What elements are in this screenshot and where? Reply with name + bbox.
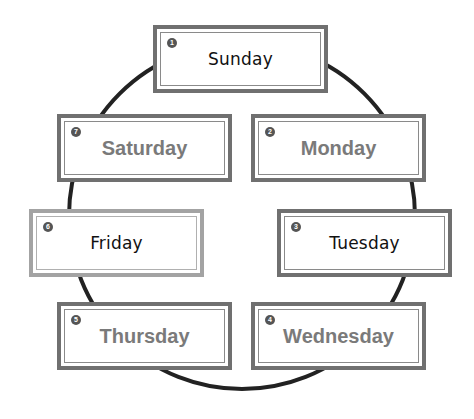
day-card-monday: 2 Monday — [251, 114, 426, 182]
day-label: Saturday — [65, 122, 224, 174]
day-card-tuesday: 3 Tuesday — [277, 209, 452, 277]
day-label: Thursday — [65, 310, 224, 362]
day-label: Sunday — [161, 33, 320, 85]
day-card-saturday: 7 Saturday — [57, 114, 232, 182]
day-label: Monday — [259, 122, 418, 174]
day-card-sunday: 1 Sunday — [153, 25, 328, 93]
day-card-wednesday: 4 Wednesday — [251, 302, 426, 370]
day-label: Friday — [37, 217, 196, 269]
day-label: Tuesday — [285, 217, 444, 269]
day-card-thursday: 5 Thursday — [57, 302, 232, 370]
day-card-friday: 6 Friday — [29, 209, 204, 277]
day-label: Wednesday — [259, 310, 418, 362]
